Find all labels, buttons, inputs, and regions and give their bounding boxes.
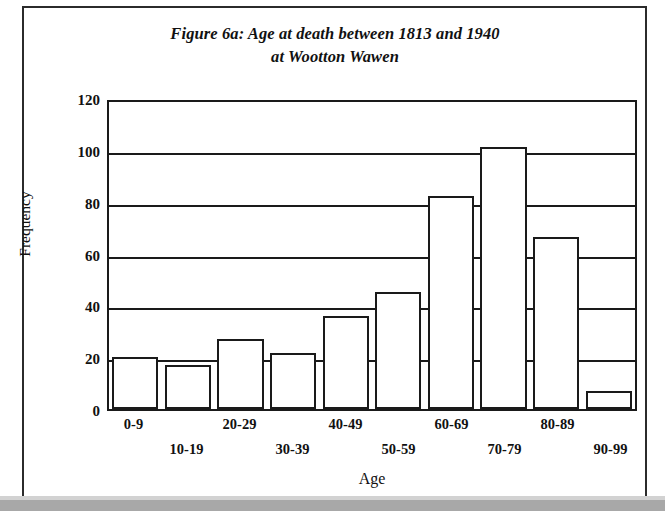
bar bbox=[112, 357, 158, 409]
bar-slot bbox=[530, 102, 583, 409]
bar bbox=[586, 391, 632, 409]
bar bbox=[323, 316, 369, 409]
x-axis-tick-label: 40-49 bbox=[329, 416, 363, 433]
y-axis-tick-labels: 120100806040200 bbox=[36, 100, 100, 411]
y-axis-tick-label: 100 bbox=[78, 143, 101, 160]
chart-title-line-2: at Wootton Wawen bbox=[40, 45, 630, 68]
x-axis-tick-label: 60-69 bbox=[435, 416, 469, 433]
y-axis-tick-label: 120 bbox=[78, 92, 101, 109]
bar bbox=[270, 353, 316, 409]
bar bbox=[165, 365, 211, 409]
bar-slot bbox=[267, 102, 320, 409]
bar bbox=[428, 196, 474, 409]
bar-slot bbox=[109, 102, 162, 409]
x-axis-tick-label: 10-19 bbox=[170, 441, 204, 458]
bar-slot bbox=[372, 102, 425, 409]
bar-slot bbox=[477, 102, 530, 409]
y-axis-title: Frequency bbox=[16, 154, 34, 294]
chart-title-line-1: Figure 6a: Age at death between 1813 and… bbox=[40, 22, 630, 45]
y-axis-tick-label: 40 bbox=[85, 299, 100, 316]
y-axis-tick-label: 60 bbox=[85, 247, 100, 264]
x-axis-tick-label: 80-89 bbox=[541, 416, 575, 433]
chart-title: Figure 6a: Age at death between 1813 and… bbox=[40, 22, 630, 68]
bar-slot bbox=[319, 102, 372, 409]
x-axis-tick-labels: 0-910-1920-2930-3940-4950-5960-6970-7980… bbox=[107, 414, 637, 464]
x-axis-tick-label: 70-79 bbox=[488, 441, 522, 458]
bar-series bbox=[109, 102, 635, 409]
x-axis-tick-label: 20-29 bbox=[223, 416, 257, 433]
x-axis-tick-label: 50-59 bbox=[382, 441, 416, 458]
x-axis-tick-label: 0-9 bbox=[124, 416, 143, 433]
y-axis-tick-label: 0 bbox=[93, 403, 101, 420]
bar bbox=[480, 147, 526, 409]
y-axis-tick-label: 80 bbox=[85, 195, 100, 212]
scanned-page: Figure 6a: Age at death between 1813 and… bbox=[0, 0, 665, 511]
bar bbox=[217, 339, 263, 409]
scan-edge-dark bbox=[0, 500, 665, 511]
x-axis-tick-label: 90-99 bbox=[594, 441, 628, 458]
x-axis-title: Age bbox=[107, 470, 637, 488]
bar-slot bbox=[162, 102, 215, 409]
x-axis-tick-label: 30-39 bbox=[276, 441, 310, 458]
bar bbox=[533, 237, 579, 409]
bar bbox=[375, 292, 421, 409]
page-border-top bbox=[22, 6, 646, 8]
bar-slot bbox=[425, 102, 478, 409]
plot-area bbox=[107, 100, 637, 411]
bar-slot bbox=[214, 102, 267, 409]
page-border-right bbox=[645, 6, 647, 504]
bar-slot bbox=[582, 102, 635, 409]
y-axis-tick-label: 20 bbox=[85, 351, 100, 368]
